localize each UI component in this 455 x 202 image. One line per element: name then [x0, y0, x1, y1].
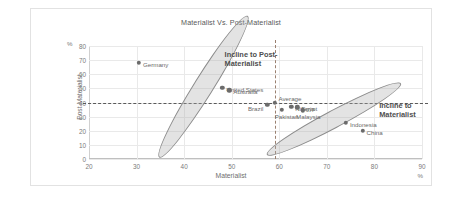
plot-area: 010203040506070802030405060708090Germany…: [89, 46, 422, 159]
gridline-horizontal: [89, 117, 422, 118]
chart-title: Materialist Vs. Post-Materialist: [31, 18, 431, 27]
x-axis-tick-label: 30: [133, 163, 140, 170]
x-axis-tick-label: 80: [371, 163, 378, 170]
x-axis-tick-label: 90: [418, 163, 425, 170]
y-axis-unit: %: [67, 40, 73, 47]
data-point[interactable]: [360, 129, 364, 133]
data-point[interactable]: [344, 121, 348, 125]
gridline-horizontal: [89, 145, 422, 146]
annotation-incline-materialist: Incline to Materialist: [379, 101, 416, 119]
x-axis-tick-label: 60: [276, 163, 283, 170]
data-point[interactable]: [265, 102, 269, 106]
data-point-label: Indonesia: [350, 120, 377, 127]
data-point[interactable]: [137, 61, 141, 65]
y-axis-tick-label: 0: [82, 156, 86, 163]
data-point-label: Pakistan: [275, 112, 299, 119]
data-point-label: Average: [279, 94, 302, 101]
x-axis-title: Materialist: [31, 172, 431, 179]
y-axis-tick-label: 70: [79, 57, 86, 64]
data-point-label: Malaysia: [296, 113, 320, 120]
gridline-horizontal: [89, 74, 422, 75]
y-axis-tick-label: 60: [79, 71, 86, 78]
y-axis-tick-label: 50: [79, 85, 86, 92]
x-axis-tick-label: 40: [181, 163, 188, 170]
data-point-label: Australia: [233, 88, 257, 95]
y-axis-tick-label: 80: [79, 43, 86, 50]
gridline-horizontal: [89, 159, 422, 160]
x-axis-tick-label: 20: [85, 163, 92, 170]
x-axis-tick-label: 70: [323, 163, 330, 170]
y-axis-tick-label: 10: [79, 141, 86, 148]
data-point[interactable]: [289, 105, 293, 109]
data-point-label: China: [367, 128, 383, 135]
y-axis-tick-label: 20: [79, 127, 86, 134]
x-axis-tick-label: 50: [228, 163, 235, 170]
y-axis-tick-label: 30: [79, 113, 86, 120]
gridline-horizontal: [89, 46, 422, 47]
data-point-label: Germany: [143, 60, 168, 67]
annotation-incline-post-materialist: Incline to Post- Materialist: [225, 50, 278, 68]
data-point[interactable]: [272, 100, 276, 104]
data-point-label: Brazil: [248, 104, 263, 111]
chart-container: Materialist Vs. Post-Materialist % % Pos…: [30, 8, 432, 186]
